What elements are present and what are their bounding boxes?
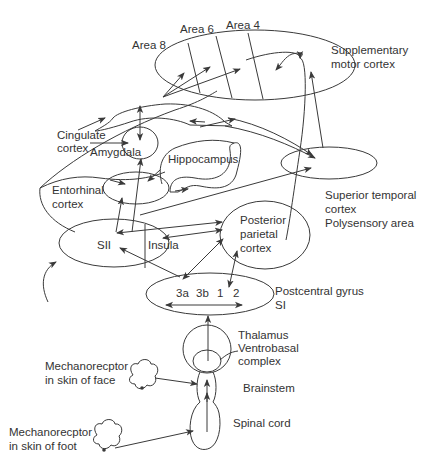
superior-temporal-shape (281, 147, 377, 179)
label-stc-line1: Superior temporal (325, 189, 416, 201)
label-entorhinal-line1: Entorhinal (52, 184, 104, 196)
foot-to-spinal-cord-arrow (115, 431, 193, 448)
label-amygdala: Amygdala (90, 146, 142, 158)
label-cingulate-line1: Cingulate (57, 129, 106, 141)
face-to-brainstem-arrow (155, 378, 197, 384)
label-area-1: 1 (217, 287, 223, 299)
sii-return-arrow (43, 262, 56, 302)
label-thalamus-line2: Ventrobasal (238, 342, 299, 354)
label-ppc-line3: cortex (240, 242, 272, 254)
hippo-to-entorhinal-arrow (148, 170, 160, 181)
label-area-8: Area 8 (132, 39, 166, 51)
to-entorhinal-arrow (110, 180, 125, 184)
label-cingulate-line2: cortex (57, 142, 89, 154)
label-face-receptor-line1: Mechanorecptor (45, 360, 128, 372)
label-sii: SII (97, 239, 111, 251)
label-postcentral-line2: SI (275, 299, 286, 311)
label-face-receptor-line2: in skin of face (45, 374, 115, 386)
ventrobasal-complex-shape (193, 350, 221, 372)
label-ppc-line2: parietal (240, 228, 278, 240)
label-sma-line2: motor cortex (331, 58, 395, 70)
label-entorhinal-line2: cortex (52, 198, 84, 210)
label-area-4: Area 4 (226, 19, 260, 31)
insula-ppc-arrow (163, 230, 222, 238)
area-divider (216, 36, 232, 98)
label-area-3a: 3a (176, 287, 189, 299)
label-insula: Insula (148, 239, 179, 251)
label-stc-line3: Polysensory area (325, 217, 414, 229)
label-foot-receptor-line2: in skin of foot (9, 440, 78, 452)
label-area-6: Area 6 (180, 23, 214, 35)
stc-to-cingulate-arrow (190, 121, 205, 122)
label-ppc-line1: Posterior (240, 214, 286, 226)
label-sma-line1: Supplementary (331, 44, 409, 56)
label-hippocampus: Hippocampus (168, 153, 239, 165)
label-area-3b: 3b (196, 287, 209, 299)
si-to-sii-arrow (120, 248, 180, 277)
stc-to-sma-arrow (311, 72, 323, 148)
label-area-2: 2 (233, 287, 239, 299)
label-postcentral-line1: Postcentral gyrus (275, 285, 364, 297)
hippocampus-shape (170, 143, 241, 192)
somatosensory-pathway-diagram: Area 8 Area 6 Area 4 Supplementary motor… (0, 0, 426, 474)
label-thalamus-line1: Thalamus (238, 329, 289, 341)
label-stc-line2: cortex (325, 203, 357, 215)
sii-to-stc-arrow (140, 168, 311, 215)
label-foot-receptor-line1: Mechanorecptor (9, 426, 92, 438)
thalamus-shape (183, 325, 231, 373)
label-spinal-cord: Spinal cord (233, 417, 291, 429)
area-divider (248, 33, 263, 99)
label-brainstem: Brainstem (243, 382, 295, 394)
sii-to-entorhinal-arrow (116, 198, 122, 232)
label-thalamus-line3: complex (238, 355, 281, 367)
face-mechanoreceptor-icon (129, 360, 157, 390)
postcentral-gyrus-shape (146, 273, 274, 315)
